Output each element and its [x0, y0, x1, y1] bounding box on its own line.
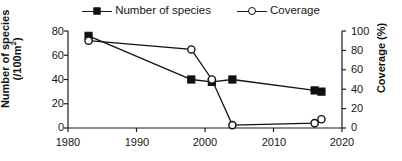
data-point-marker-open-circle	[188, 46, 195, 53]
data-point-marker-filled-square	[311, 87, 318, 94]
data-point-marker-open-circle	[85, 37, 92, 44]
data-point-marker-filled-square	[188, 76, 195, 83]
series-line-coverage	[89, 41, 322, 125]
data-point-marker-filled-square	[318, 88, 325, 95]
axis-lines	[68, 31, 342, 128]
data-point-marker-open-circle	[318, 116, 325, 123]
chart-canvas	[0, 0, 402, 161]
data-point-marker-open-circle	[208, 76, 215, 83]
data-point-marker-open-circle	[229, 121, 236, 128]
plot-area: Number of species (/100m2) Coverage (%) …	[0, 0, 402, 161]
chart-figure: Number of species Coverage Number of spe…	[0, 0, 402, 161]
data-point-marker-open-circle	[311, 120, 318, 127]
data-point-marker-filled-square	[229, 76, 236, 83]
data-series-layer	[85, 32, 325, 128]
